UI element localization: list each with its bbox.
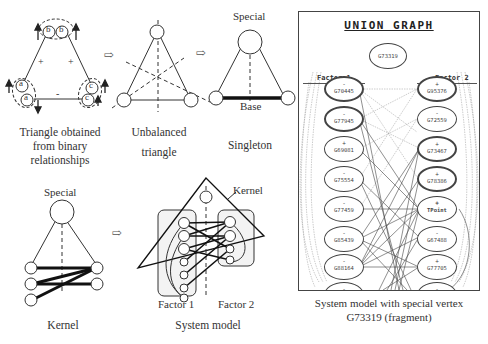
- factor2-label: Factor 2: [218, 298, 254, 310]
- node-name: G77459: [325, 206, 363, 214]
- node-name: G85439: [325, 236, 363, 244]
- factor2-node: +G77705: [417, 254, 457, 280]
- factor1-node: -G77945: [324, 106, 364, 132]
- special-vertex-node: G73319: [369, 43, 407, 69]
- special-label: Special: [44, 186, 76, 198]
- caption-line: Triangle obtained: [0, 125, 120, 139]
- factor2-node: +G78386: [417, 166, 457, 192]
- factor1-node: -G70445: [324, 76, 364, 102]
- special-label: Special: [233, 10, 265, 22]
- edge-sign: +: [68, 56, 74, 67]
- factor2-node: -G67488: [417, 226, 457, 252]
- vertex-label: a: [19, 78, 23, 88]
- caption-line: triangle: [120, 145, 198, 159]
- factor1-node: -G77459: [324, 196, 364, 222]
- union-graph-title: UNION GRAPH: [299, 19, 479, 32]
- caption-line: from binary: [0, 139, 120, 153]
- vertex-label: c: [89, 80, 93, 90]
- node-name: G73467: [419, 147, 455, 155]
- node-name: G69081: [325, 146, 363, 154]
- node-name: G67488: [418, 236, 456, 244]
- factor1-node: -G85439: [324, 226, 364, 252]
- node-name: G73319: [378, 53, 398, 59]
- kernel-diagram: [25, 200, 103, 306]
- singleton-diagram: [209, 30, 295, 105]
- caption-unbalanced-triangle: Unbalanced triangle: [120, 125, 198, 159]
- right-arrow-icon: ⇨: [104, 48, 114, 62]
- node-name: G77945: [326, 117, 362, 125]
- right-arrow-icon: ⇨: [112, 226, 122, 240]
- unbalanced-triangle: [112, 20, 210, 112]
- caption-kernel: Kernel: [30, 318, 96, 332]
- base-label: Base: [240, 100, 261, 112]
- node-name: G70445: [326, 87, 362, 95]
- node-name: TPoint: [418, 206, 456, 214]
- node-name: G78386: [419, 177, 455, 185]
- node-name: G72559: [418, 116, 456, 124]
- node-sign: -: [325, 286, 363, 291]
- caption-line: System model with special vertex: [298, 296, 480, 310]
- caption-union-graph: System model with special vertex G73319 …: [298, 296, 480, 324]
- caption-line: relationships: [0, 153, 120, 167]
- vertex-label: a: [24, 92, 28, 102]
- factor1-node: -G88164: [324, 254, 364, 280]
- vertex-label: b: [46, 24, 51, 34]
- kernel-label: Kernel: [233, 184, 263, 196]
- factor2-node: +TPoint: [417, 196, 457, 222]
- vertex-label: b: [59, 24, 64, 34]
- union-graph-panel: UNION GRAPH G73319 Factor 1 Factor 2 -G7…: [298, 11, 480, 291]
- factor1-label: Factor 1: [158, 298, 194, 310]
- caption-singleton: Singleton: [218, 138, 282, 152]
- node-name: G88164: [325, 264, 363, 272]
- diagram-canvas: [0, 0, 298, 344]
- vertex-label: c: [85, 92, 89, 102]
- caption-line: Unbalanced: [120, 125, 198, 139]
- node-sign: -: [418, 286, 456, 291]
- caption-system-model: System model: [160, 318, 256, 332]
- caption-binary-triangle: Triangle obtained from binary relationsh…: [0, 125, 120, 167]
- edge-sign: +: [38, 56, 44, 67]
- caption-line: G73319 (fragment): [298, 310, 480, 324]
- factor2-node: +G73467: [417, 136, 457, 162]
- factor1-node: -G75554: [324, 166, 364, 192]
- system-model-diagram: [138, 178, 264, 302]
- node-name: G77705: [418, 264, 456, 272]
- factor2-node: +G95376: [417, 76, 457, 102]
- factor1-node: +G69081: [324, 136, 364, 162]
- factor2-node: -G72559: [417, 106, 457, 132]
- edge-sign: -: [56, 88, 59, 99]
- node-name: G95376: [419, 87, 455, 95]
- right-arrow-icon: ⇨: [196, 46, 206, 60]
- node-name: G75554: [325, 176, 363, 184]
